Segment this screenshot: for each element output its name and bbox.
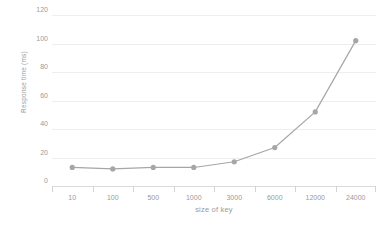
data-point-marker: 24000: 102: [353, 38, 358, 43]
x-axis-tick: [295, 186, 296, 192]
x-axis-tick-label: 6000: [267, 193, 283, 203]
y-axis-tick-label: 60: [26, 92, 48, 100]
x-axis-tick: [133, 186, 134, 192]
plot-area: 10: 13100: 12500: 131000: 133000: 176000…: [52, 15, 376, 186]
x-axis-tick-label: 100: [107, 193, 119, 203]
line-chart: Response time (ms) 020406080100120 10: 1…: [0, 0, 388, 226]
y-axis-tick-label: 100: [26, 35, 48, 43]
series-layer: 10: 13100: 12500: 131000: 133000: 176000…: [52, 15, 376, 186]
x-axis-tick: [255, 186, 256, 192]
x-axis-tick-labels: 101005001000300060001200024000: [52, 193, 376, 205]
y-axis-tick-label: 120: [26, 6, 48, 14]
data-point-marker: 1000: 13: [191, 165, 196, 170]
x-axis-tick: [375, 186, 376, 192]
y-axis-tick-label: 80: [26, 63, 48, 71]
data-point-marker: 6000: 27: [272, 145, 277, 150]
x-axis-tick: [214, 186, 215, 192]
x-axis-tick-label: 10: [68, 193, 76, 203]
y-axis-tick-label: 40: [26, 120, 48, 128]
y-axis-tick-labels: 020406080100120: [26, 10, 48, 190]
x-axis-tick-label: 500: [147, 193, 159, 203]
data-point-marker: 100: 12: [110, 166, 115, 171]
x-axis-title: size of key: [52, 205, 376, 214]
x-axis-tick: [93, 186, 94, 192]
series-line: [72, 41, 356, 169]
data-point-marker: 3000: 17: [232, 159, 237, 164]
x-axis-tick-label: 1000: [186, 193, 202, 203]
x-axis-tick-label: 3000: [226, 193, 242, 203]
x-axis-tick: [174, 186, 175, 192]
x-axis-tick: [52, 186, 53, 192]
x-axis-tick-label: 24000: [346, 193, 365, 203]
x-axis-tick-label: 12000: [306, 193, 325, 203]
x-axis-ticks: [52, 186, 376, 192]
y-axis-tick-label: 0: [26, 177, 48, 185]
data-point-marker: 10: 13: [70, 165, 75, 170]
data-point-marker: 500: 13: [151, 165, 156, 170]
data-point-marker: 12000: 52: [313, 109, 318, 114]
y-axis-tick-label: 20: [26, 149, 48, 157]
x-axis-tick: [336, 186, 337, 192]
